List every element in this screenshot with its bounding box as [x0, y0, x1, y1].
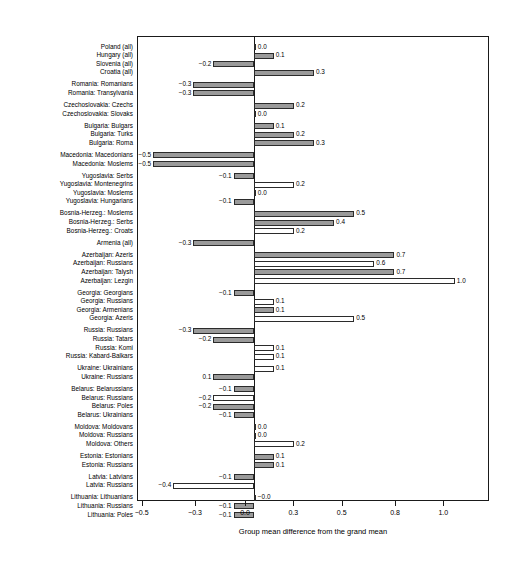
x-axis-tick-label: −0.3 [188, 508, 202, 518]
x-axis-tick-label: 0.8 [390, 508, 400, 518]
x-axis-tick [342, 501, 343, 506]
x-axis-tick [443, 501, 444, 506]
x-axis-tick-label: 0.5 [337, 508, 347, 518]
x-axis-tick [142, 501, 143, 506]
x-axis: −0.5−0.30.00.30.50.81.0 [0, 0, 510, 567]
x-axis-tick [245, 501, 246, 506]
x-axis-tick-label: −0.5 [135, 508, 149, 518]
x-axis-tick-label: 1.0 [438, 508, 448, 518]
x-axis-tick-label: 0.3 [288, 508, 298, 518]
x-axis-tick-label: 0.0 [240, 508, 250, 518]
x-axis-tick [395, 501, 396, 506]
x-axis-title: Group mean difference from the grand mea… [137, 527, 489, 536]
x-axis-tick [293, 501, 294, 506]
chart-figure: Poland (all)0.0Hungary (all)0.1Slovenia … [0, 0, 510, 567]
x-axis-tick [195, 501, 196, 506]
